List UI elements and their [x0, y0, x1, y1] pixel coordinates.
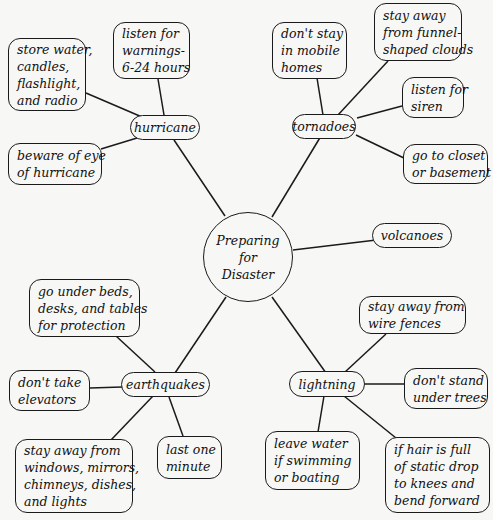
branch-label: earthquakes	[126, 377, 205, 392]
branch-hurricane: hurricane	[130, 115, 200, 140]
item-line: warnings-	[122, 42, 181, 59]
item-line: stay away from	[368, 298, 457, 315]
item-line: go under beds,	[38, 283, 131, 300]
item-line: and lights	[24, 493, 124, 510]
branch-earthquakes: earthquakes	[121, 372, 210, 397]
item-line: candles,	[17, 58, 77, 75]
item-line: last one	[166, 441, 213, 458]
item-line: bend forward	[394, 492, 481, 509]
item-line: or basement	[412, 164, 479, 181]
item-line: don't stay	[281, 25, 338, 42]
center-line: Disaster	[222, 266, 275, 283]
earthquakes-item-under-beds: go under beds, desks, and tables for pro…	[29, 279, 140, 337]
tornadoes-item-funnel-clouds: stay away from funnel- shaped clouds	[374, 3, 462, 61]
center-line: Preparing	[216, 232, 279, 249]
lightning-item-wire-fences: stay away from wire fences	[359, 296, 466, 334]
item-line: of hurricane	[17, 164, 93, 181]
item-line: listen for	[411, 81, 455, 98]
lightning-item-under-trees: don't stand under trees	[404, 368, 488, 409]
lightning-item-static-hair: if hair is full of static drop to knees …	[385, 437, 490, 513]
item-line: from funnel-	[383, 24, 453, 41]
earthquakes-item-last-minute: last one minute	[157, 436, 222, 479]
item-line: flashlight,	[17, 75, 77, 92]
branch-volcanoes: volcanoes	[372, 223, 452, 248]
item-line: don't take	[18, 374, 81, 391]
item-line: windows, mirrors,	[24, 459, 124, 476]
item-line: beware of eye	[17, 147, 93, 164]
item-line: stay away from	[24, 442, 124, 459]
item-line: leave water	[274, 435, 351, 452]
item-line: if hair is full	[394, 441, 481, 458]
item-line: or boating	[274, 469, 351, 486]
item-line: siren	[411, 98, 455, 115]
item-line: for protection	[38, 317, 131, 334]
item-line: in mobile	[281, 42, 338, 59]
item-line: don't stand	[413, 372, 479, 389]
tornadoes-item-listen-siren: listen for siren	[402, 77, 464, 118]
item-line: if swimming	[274, 452, 351, 469]
branch-label: lightning	[298, 377, 355, 392]
branch-label: volcanoes	[381, 228, 443, 243]
item-line: to knees and	[394, 475, 481, 492]
tornadoes-item-closet-basement: go to closet or basement	[403, 144, 488, 184]
item-line: homes	[281, 59, 338, 76]
item-line: go to closet	[412, 147, 479, 164]
item-line: wire fences	[368, 315, 457, 332]
item-line: store water,	[17, 41, 77, 58]
branch-lightning: lightning	[289, 371, 365, 397]
item-line: minute	[166, 458, 213, 475]
item-line: of static drop	[394, 458, 481, 475]
item-line: 6-24 hours	[122, 59, 181, 76]
hurricane-item-store-water: store water, candles, flashlight, and ra…	[8, 38, 86, 111]
lightning-item-leave-water: leave water if swimming or boating	[265, 431, 360, 490]
item-line: chimneys, dishes,	[24, 476, 124, 493]
branch-label: hurricane	[134, 120, 196, 135]
branch-label: tornadoes	[292, 119, 355, 134]
item-line: desks, and tables	[38, 300, 131, 317]
item-line: and radio	[17, 92, 77, 109]
item-line: elevators	[18, 391, 81, 408]
earthquakes-item-windows-mirrors: stay away from windows, mirrors, chimney…	[15, 439, 133, 513]
hurricane-item-listen-warnings: listen for warnings- 6-24 hours	[113, 22, 190, 79]
branch-tornadoes: tornadoes	[292, 114, 356, 139]
hurricane-item-beware-eye: beware of eye of hurricane	[8, 143, 102, 185]
item-line: stay away	[383, 7, 453, 24]
center-line: for	[239, 249, 257, 266]
center-topic: Preparing for Disaster	[203, 212, 293, 302]
earthquakes-item-elevators: don't take elevators	[9, 370, 90, 411]
item-line: under trees	[413, 389, 479, 406]
item-line: shaped clouds	[383, 41, 453, 58]
tornadoes-item-mobile-homes: don't stay in mobile homes	[272, 22, 347, 79]
item-line: listen for	[122, 25, 181, 42]
